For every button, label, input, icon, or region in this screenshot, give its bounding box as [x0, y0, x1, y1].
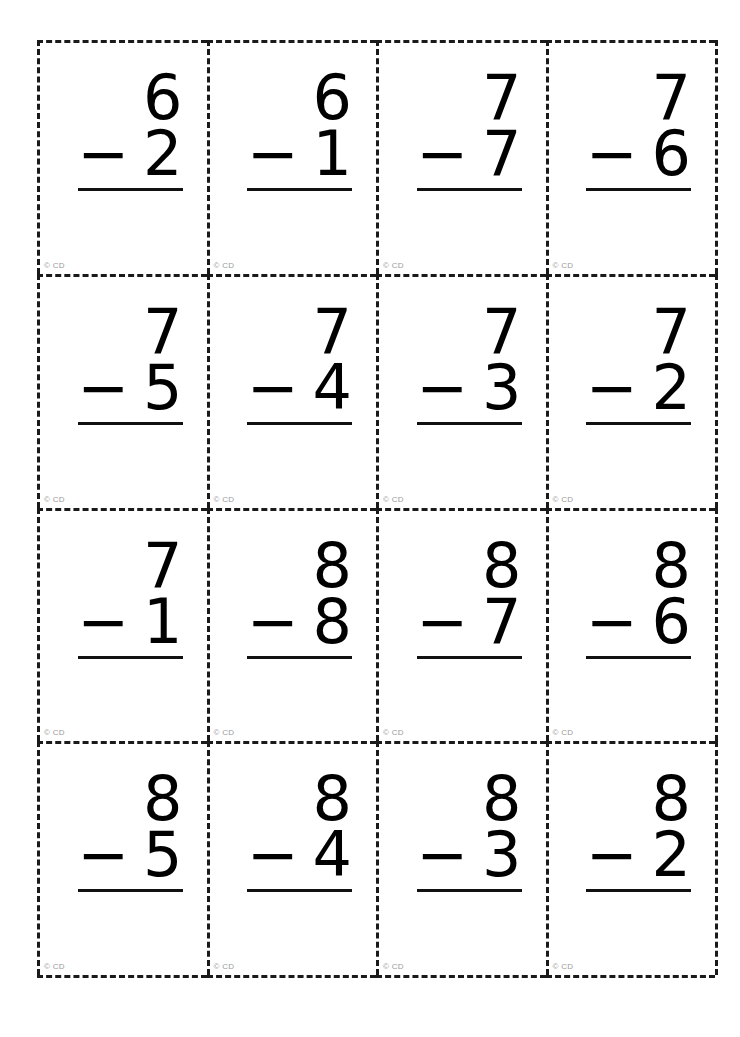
subtrahend-row: −4: [247, 360, 352, 416]
subtrahend: 3: [482, 827, 521, 883]
cut-line-vertical: [715, 508, 718, 742]
subtrahend: 7: [482, 594, 521, 650]
subtraction-problem: 8−4: [207, 741, 377, 975]
subtrahend: 1: [143, 594, 182, 650]
flashcard-sheet: 6−2© CD6−1© CD7−7© CD7−6© CD7−5© CD7−4© …: [37, 40, 715, 975]
copyright-mark: © CD: [553, 261, 574, 271]
subtrahend: 6: [652, 126, 691, 182]
copyright-mark: © CD: [553, 728, 574, 738]
subtrahend: 4: [313, 360, 352, 416]
minus-sign-icon: −: [78, 360, 130, 416]
copyright-mark: © CD: [44, 962, 65, 972]
minus-sign-icon: −: [417, 827, 469, 883]
subtraction-problem: 7−2: [546, 274, 716, 508]
subtrahend-row: −6: [586, 126, 691, 182]
copyright-mark: © CD: [553, 495, 574, 505]
copyright-mark: © CD: [214, 495, 235, 505]
subtrahend-row: −4: [247, 827, 352, 883]
subtraction-problem: 7−1: [37, 508, 207, 742]
flashcard[interactable]: 8−7© CD: [376, 508, 546, 742]
subtraction-problem: 7−4: [207, 274, 377, 508]
subtrahend: 4: [313, 827, 352, 883]
answer-rule: [417, 188, 522, 191]
subtrahend-row: −1: [247, 126, 352, 182]
flashcard[interactable]: 7−7© CD: [376, 40, 546, 274]
cut-line-vertical: [715, 741, 718, 975]
subtraction-problem: 8−8: [207, 508, 377, 742]
subtraction-problem: 8−2: [546, 741, 716, 975]
flashcard[interactable]: 7−3© CD: [376, 274, 546, 508]
cut-line-vertical: [715, 40, 718, 274]
answer-rule: [247, 656, 352, 659]
copyright-mark: © CD: [553, 962, 574, 972]
answer-rule: [78, 188, 183, 191]
cut-line-horizontal: [207, 975, 377, 978]
flashcard[interactable]: 6−2© CD: [37, 40, 207, 274]
flashcard[interactable]: 7−4© CD: [207, 274, 377, 508]
answer-rule: [417, 422, 522, 425]
answer-rule: [586, 422, 691, 425]
copyright-mark: © CD: [214, 728, 235, 738]
copyright-mark: © CD: [383, 261, 404, 271]
minus-sign-icon: −: [78, 126, 130, 182]
flashcard[interactable]: 8−5© CD: [37, 741, 207, 975]
subtrahend: 2: [652, 360, 691, 416]
answer-rule: [78, 889, 183, 892]
subtrahend-row: −2: [586, 360, 691, 416]
minus-sign-icon: −: [78, 594, 130, 650]
flashcard[interactable]: 8−3© CD: [376, 741, 546, 975]
answer-rule: [417, 656, 522, 659]
subtrahend: 2: [143, 126, 182, 182]
subtrahend: 1: [313, 126, 352, 182]
subtraction-problem: 8−7: [376, 508, 546, 742]
subtraction-problem: 7−7: [376, 40, 546, 274]
answer-rule: [586, 656, 691, 659]
subtrahend: 5: [143, 360, 182, 416]
answer-rule: [417, 889, 522, 892]
subtrahend: 5: [143, 827, 182, 883]
answer-rule: [247, 889, 352, 892]
minus-sign-icon: −: [586, 360, 638, 416]
flashcard[interactable]: 8−8© CD: [207, 508, 377, 742]
flashcard[interactable]: 6−1© CD: [207, 40, 377, 274]
subtraction-problem: 7−6: [546, 40, 716, 274]
copyright-mark: © CD: [214, 962, 235, 972]
subtrahend: 7: [482, 126, 521, 182]
subtrahend-row: −2: [78, 126, 183, 182]
flashcard[interactable]: 8−4© CD: [207, 741, 377, 975]
flashcard[interactable]: 7−2© CD: [546, 274, 716, 508]
subtrahend-row: −2: [586, 827, 691, 883]
subtrahend: 8: [313, 594, 352, 650]
flashcard[interactable]: 8−6© CD: [546, 508, 716, 742]
copyright-mark: © CD: [44, 261, 65, 271]
subtrahend-row: −5: [78, 360, 183, 416]
minus-sign-icon: −: [247, 827, 299, 883]
subtrahend: 6: [652, 594, 691, 650]
subtraction-problem: 8−6: [546, 508, 716, 742]
flashcard[interactable]: 7−1© CD: [37, 508, 207, 742]
copyright-mark: © CD: [383, 962, 404, 972]
copyright-mark: © CD: [44, 728, 65, 738]
subtrahend-row: −7: [417, 594, 522, 650]
subtrahend-row: −1: [78, 594, 183, 650]
flashcard[interactable]: 7−5© CD: [37, 274, 207, 508]
subtrahend-row: −5: [78, 827, 183, 883]
minus-sign-icon: −: [417, 126, 469, 182]
subtraction-problem: 8−3: [376, 741, 546, 975]
copyright-mark: © CD: [214, 261, 235, 271]
cut-line-horizontal: [376, 975, 546, 978]
minus-sign-icon: −: [417, 360, 469, 416]
flashcard[interactable]: 8−2© CD: [546, 741, 716, 975]
copyright-mark: © CD: [44, 495, 65, 505]
flashcard[interactable]: 7−6© CD: [546, 40, 716, 274]
subtraction-problem: 6−2: [37, 40, 207, 274]
minus-sign-icon: −: [78, 827, 130, 883]
answer-rule: [586, 889, 691, 892]
subtrahend-row: −8: [247, 594, 352, 650]
subtrahend-row: −6: [586, 594, 691, 650]
answer-rule: [247, 422, 352, 425]
answer-rule: [586, 188, 691, 191]
subtrahend-row: −3: [417, 360, 522, 416]
subtraction-problem: 8−5: [37, 741, 207, 975]
minus-sign-icon: −: [586, 126, 638, 182]
